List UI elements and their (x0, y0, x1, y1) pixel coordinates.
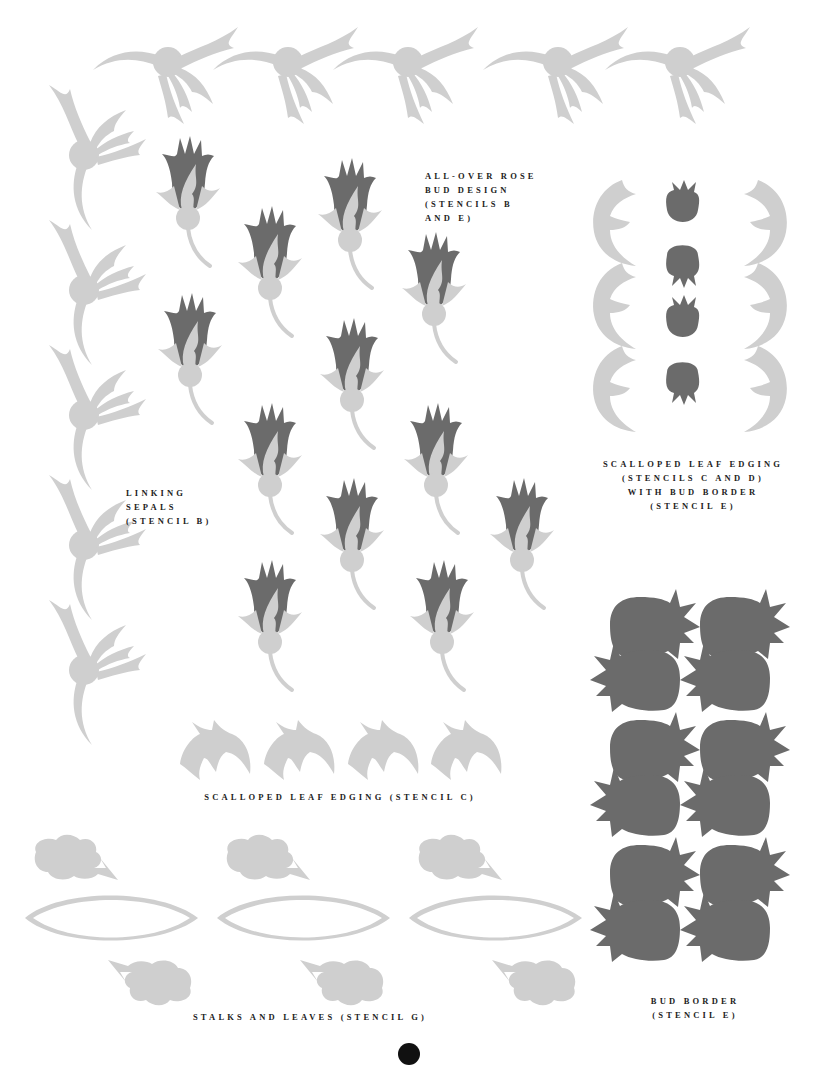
small-bud-column (666, 180, 699, 405)
stalks-and-leaves (25, 835, 582, 1006)
caption-scalloped-leaf-edging: Scalloped leaf edging (stencil C) (160, 790, 520, 804)
top-sepal-row (93, 27, 750, 124)
bud-border (590, 589, 790, 962)
caption-stalks-and-leaves: Stalks and leaves (stencil G) (160, 1010, 460, 1024)
scalloped-leaf-row (180, 720, 501, 780)
caption-bud-border: Bud border (stencil E) (630, 994, 760, 1022)
caption-allover-rose-bud: All-over rose bud design (stencils B and… (425, 169, 537, 225)
page-number-marker (398, 1043, 420, 1065)
left-sepal-column (49, 85, 146, 745)
caption-scalloped-with-bud-border: Scalloped leaf edging (stencils C and D)… (588, 457, 798, 513)
caption-linking-sepals: Linking sepals (stencil B) (126, 486, 212, 528)
